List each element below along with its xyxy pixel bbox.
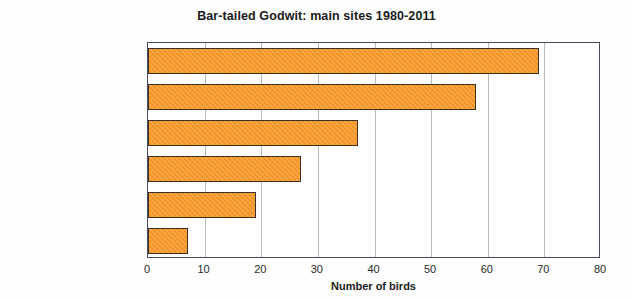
x-tick-label: 70 [523, 263, 563, 275]
bar-band [148, 115, 599, 151]
bar-band [148, 43, 599, 79]
x-tick-label: 20 [240, 263, 280, 275]
bar-band [148, 223, 599, 259]
bar[interactable] [148, 48, 539, 73]
bars-layer [148, 43, 599, 257]
bar[interactable] [148, 192, 256, 217]
bar-band [148, 151, 599, 187]
plot-area [147, 42, 600, 258]
chart-figure: Bar-tailed Godwit: main sites 1980-2011 … [0, 0, 633, 299]
bar[interactable] [148, 120, 358, 145]
x-tick-label: 50 [410, 263, 450, 275]
bar-band [148, 187, 599, 223]
bar[interactable] [148, 156, 301, 181]
bar-band [148, 79, 599, 115]
x-tick-label: 10 [184, 263, 224, 275]
x-axis-title: Number of birds [147, 280, 600, 292]
x-tick-label: 60 [467, 263, 507, 275]
bar[interactable] [148, 84, 476, 109]
x-tick-label: 30 [297, 263, 337, 275]
x-tick-label: 80 [580, 263, 620, 275]
x-tick-label: 0 [127, 263, 167, 275]
bar[interactable] [148, 228, 188, 253]
chart-title: Bar-tailed Godwit: main sites 1980-2011 [0, 9, 633, 23]
x-tick-label: 40 [354, 263, 394, 275]
